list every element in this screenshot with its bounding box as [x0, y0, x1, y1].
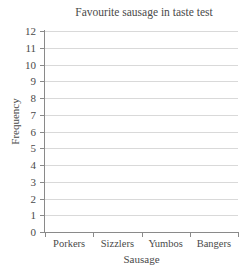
x-tick-1 [93, 232, 94, 237]
y-axis-label-10: 10 [0, 60, 36, 71]
x-tick-2 [142, 232, 143, 237]
chart-title: Favourite sausage in taste test [40, 5, 248, 19]
y-axis-label-11: 11 [0, 43, 36, 54]
y-tick-10 [40, 65, 45, 66]
y-tick-4 [40, 165, 45, 166]
x-tick-3 [190, 232, 191, 237]
y-axis-label-0: 0 [0, 227, 36, 238]
chart-figure: Favourite sausage in taste test 12111098… [0, 0, 252, 275]
y-tick-1 [40, 215, 45, 216]
x-tick-4 [238, 232, 239, 237]
bars-layer [45, 31, 238, 232]
plot-area [45, 31, 238, 232]
y-tick-7 [40, 115, 45, 116]
y-axis-label-12: 12 [0, 26, 36, 37]
y-tick-6 [40, 132, 45, 133]
y-tick-5 [40, 148, 45, 149]
y-tick-8 [40, 98, 45, 99]
y-axis-title: Frequency [10, 77, 21, 167]
x-axis-title: Sausage [45, 253, 238, 265]
x-axis-label-bangers: Bangers [186, 238, 242, 250]
y-axis-label-2: 2 [0, 194, 36, 205]
y-tick-9 [40, 81, 45, 82]
y-axis-label-1: 1 [0, 210, 36, 221]
y-tick-11 [40, 48, 45, 49]
y-axis-label-3: 3 [0, 177, 36, 188]
x-tick-0 [45, 232, 46, 237]
y-tick-2 [40, 199, 45, 200]
y-tick-12 [40, 31, 45, 32]
y-tick-3 [40, 182, 45, 183]
